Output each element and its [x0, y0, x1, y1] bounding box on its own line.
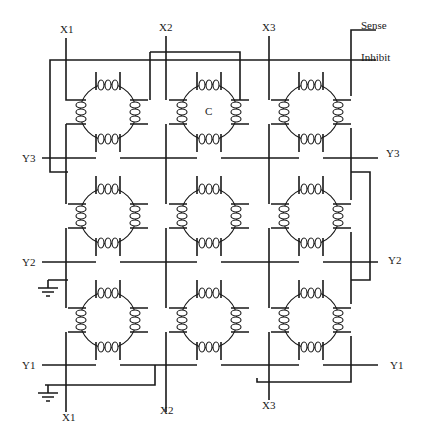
label-x3-top: X3	[262, 22, 275, 33]
core-r2c3	[271, 176, 351, 256]
core-r3c2	[169, 280, 249, 360]
core-r2c2	[169, 176, 249, 256]
core-memory-diagram: X1 X2 X3 X1 X2 X3 Y3 Y2 Y1 Y3 Y2 Y1 Sens…	[0, 0, 421, 432]
loop-bottom	[45, 365, 155, 385]
label-y3-right: Y3	[386, 148, 399, 159]
label-sense: Sense	[361, 20, 387, 31]
label-y3-left: Y3	[22, 153, 35, 164]
x1-line	[66, 38, 68, 412]
wiring-svg	[0, 0, 421, 432]
label-x3-bottom: X3	[262, 400, 275, 411]
label-x1-bottom: X1	[62, 412, 75, 423]
inhibit-line	[50, 60, 376, 172]
label-y1-right: Y1	[390, 360, 403, 371]
core-r2c1	[68, 176, 148, 256]
core-r1c1	[68, 72, 148, 152]
ground-symbol-1	[38, 280, 68, 296]
label-y1-left: Y1	[22, 360, 35, 371]
label-x2-top: X2	[159, 22, 172, 33]
core-r1c3	[271, 72, 351, 152]
label-y2-left: Y2	[22, 257, 35, 268]
label-inhibit: Inhibit	[361, 52, 390, 63]
core-r3c3	[271, 280, 351, 360]
label-core-c: C	[205, 106, 212, 117]
ground-symbol-2	[38, 385, 58, 401]
label-y2-right: Y2	[388, 255, 401, 266]
label-x1-top: X1	[60, 24, 73, 35]
loop-right	[351, 172, 370, 280]
core-r3c1	[68, 280, 148, 360]
label-x2-bottom: X2	[160, 405, 173, 416]
